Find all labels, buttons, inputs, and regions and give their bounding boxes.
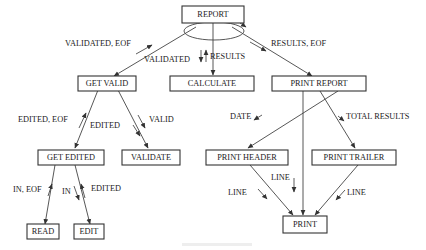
label-in-eof: IN, EOF xyxy=(13,185,42,194)
data-flow-arrows xyxy=(48,23,345,200)
svg-text:CALCULATE: CALCULATE xyxy=(188,79,236,88)
node-print-trailer: PRINT TRAILER xyxy=(312,150,396,165)
svg-text:GET VALID: GET VALID xyxy=(86,79,129,88)
flow-labels: VALIDATED, EOF VALIDATED RESULTS RESULTS… xyxy=(13,39,410,197)
label-line-trailer: LINE xyxy=(347,188,366,197)
structure-chart-diagram: REPORT GET VALID CALCULATE PRINT REPORT … xyxy=(0,0,426,250)
node-get-valid: GET VALID xyxy=(78,76,136,91)
label-total-results: TOTAL RESULTS xyxy=(346,112,410,121)
label-validated: VALIDATED xyxy=(144,55,190,64)
node-get-edited: GET EDITED xyxy=(38,150,104,165)
node-print-report: PRINT REPORT xyxy=(272,76,366,91)
label-results: RESULTS xyxy=(210,52,246,61)
svg-text:READ: READ xyxy=(32,227,55,236)
node-validate: VALIDATE xyxy=(122,150,180,165)
svg-text:VALIDATE: VALIDATE xyxy=(131,153,171,162)
label-edited-eof: EDITED, EOF xyxy=(18,115,68,124)
label-validated-eof: VALIDATED, EOF xyxy=(65,39,131,48)
label-in: IN xyxy=(62,187,71,196)
label-line-out: LINE xyxy=(228,188,247,197)
label-edited: EDITED xyxy=(90,121,120,130)
node-read: READ xyxy=(27,224,59,239)
svg-text:GET EDITED: GET EDITED xyxy=(47,153,95,162)
node-print-header: PRINT HEADER xyxy=(206,150,288,165)
label-date: DATE xyxy=(230,112,251,121)
iteration-loop-ellipse xyxy=(184,22,244,40)
svg-text:EDIT: EDIT xyxy=(80,227,99,236)
svg-text:PRINT TRAILER: PRINT TRAILER xyxy=(324,153,385,162)
label-results-eof: RESULTS, EOF xyxy=(271,39,326,48)
svg-text:PRINT: PRINT xyxy=(293,220,317,229)
node-calculate: CALCULATE xyxy=(170,76,254,91)
caption-placeholder xyxy=(182,243,252,246)
svg-text:PRINT HEADER: PRINT HEADER xyxy=(217,153,277,162)
node-print: PRINT xyxy=(283,216,327,233)
svg-text:PRINT REPORT: PRINT REPORT xyxy=(290,79,347,88)
label-line-header: LINE xyxy=(271,173,290,182)
svg-text:REPORT: REPORT xyxy=(197,10,228,19)
node-report: REPORT xyxy=(182,6,244,23)
label-edited-2: EDITED xyxy=(91,184,121,193)
label-valid: VALID xyxy=(149,115,174,124)
node-edit: EDIT xyxy=(74,224,104,239)
